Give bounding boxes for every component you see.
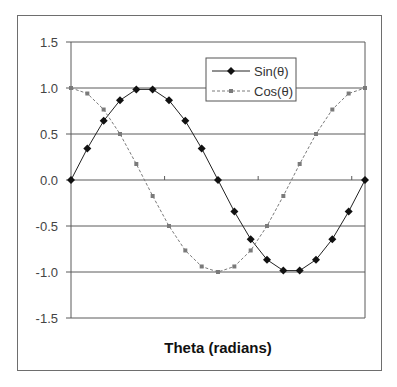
square-marker-icon (183, 248, 187, 252)
square-marker-icon (151, 194, 155, 198)
square-marker-icon (118, 132, 122, 136)
square-marker-icon (200, 264, 204, 268)
diamond-marker-icon (198, 145, 206, 153)
diamond-marker-icon (67, 176, 75, 184)
y-tick-label: 1.5 (40, 35, 58, 50)
diamond-marker-icon (149, 85, 157, 93)
line-chart: 1.51.00.50.0-0.5-1.0-1.5 Sin(θ) Cos(θ) T… (0, 0, 397, 387)
square-marker-icon (102, 108, 106, 112)
square-marker-icon (69, 86, 73, 90)
diamond-marker-icon (214, 176, 222, 184)
y-tick-label: 1.0 (40, 81, 58, 96)
square-marker-icon (134, 162, 138, 166)
y-tick-label: -1.0 (36, 265, 58, 280)
legend-label-sin: Sin(θ) (254, 64, 289, 79)
square-marker-icon (249, 248, 253, 252)
legend: Sin(θ) Cos(θ) (206, 58, 296, 101)
y-tick-label: -0.5 (36, 219, 58, 234)
square-marker-icon (314, 132, 318, 136)
square-marker-icon (265, 224, 269, 228)
square-marker-icon (167, 224, 171, 228)
diamond-marker-icon (132, 85, 140, 93)
y-axis-labels: 1.51.00.50.0-0.5-1.0-1.5 (36, 35, 58, 326)
diamond-marker-icon (345, 207, 353, 215)
diamond-marker-icon (361, 176, 369, 184)
diamond-marker-icon (230, 207, 238, 215)
y-tick-label: 0.5 (40, 127, 58, 142)
square-marker-icon (363, 86, 367, 90)
y-tick-label: -1.5 (36, 311, 58, 326)
diamond-marker-icon (279, 267, 287, 275)
square-marker-icon (330, 108, 334, 112)
square-marker-icon (229, 89, 233, 93)
x-axis-title: Theta (radians) (164, 339, 272, 356)
y-tick-label: 0.0 (40, 173, 58, 188)
square-marker-icon (232, 264, 236, 268)
diamond-marker-icon (83, 145, 91, 153)
legend-label-cos: Cos(θ) (254, 84, 293, 99)
square-marker-icon (85, 92, 89, 96)
square-marker-icon (347, 92, 351, 96)
square-marker-icon (281, 194, 285, 198)
square-marker-icon (216, 270, 220, 274)
square-marker-icon (298, 162, 302, 166)
diamond-marker-icon (296, 267, 304, 275)
